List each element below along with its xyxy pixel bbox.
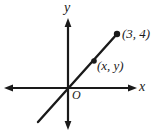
point-label-x-y: (x, y) — [97, 59, 124, 72]
coordinate-plane-svg — [0, 0, 163, 133]
origin-label: O — [72, 89, 81, 101]
x-axis-left-arrowhead — [4, 84, 13, 91]
point-label-3-4: (3, 4) — [122, 27, 150, 40]
y-axis-top-arrowhead — [65, 18, 72, 27]
line-through-origin — [38, 34, 117, 122]
point-marker-x-y — [91, 58, 97, 64]
point-marker-3-4 — [114, 31, 120, 37]
x-axis-label: x — [139, 80, 145, 94]
y-axis-bottom-arrowhead — [65, 121, 72, 130]
coordinate-plane-figure: y x O (3, 4) (x, y) — [0, 0, 163, 133]
x-axis-right-arrowhead — [128, 84, 137, 91]
y-axis-label: y — [64, 1, 70, 15]
